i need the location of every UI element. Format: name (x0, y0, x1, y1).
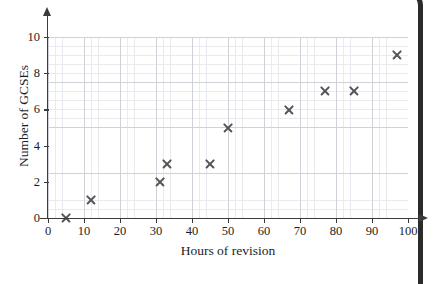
data-point-marker (319, 85, 331, 97)
plot-area (48, 37, 408, 218)
x-axis-tick-label: 20 (102, 224, 138, 239)
data-point-marker (283, 103, 295, 115)
data-point-marker (348, 85, 360, 97)
x-axis-tick (192, 218, 193, 223)
x-axis-tick-label: 90 (354, 224, 390, 239)
x-axis-tick-label: 0 (30, 224, 66, 239)
x-axis-tick-label: 40 (174, 224, 210, 239)
x-axis-tick-label: 60 (246, 224, 282, 239)
data-point-marker (222, 122, 234, 134)
y-axis-tick (44, 109, 49, 110)
x-axis-tick-label: 50 (210, 224, 246, 239)
data-point-marker (154, 176, 166, 188)
data-point-marker (161, 158, 173, 170)
y-axis-tick (44, 218, 49, 219)
x-axis-arrowhead (419, 214, 428, 222)
x-axis-tick-label: 70 (282, 224, 318, 239)
x-axis-tick-label: 30 (138, 224, 174, 239)
y-axis-title: Number of GCSEs (16, 36, 32, 196)
x-axis-title: Hours of revision (128, 243, 328, 259)
x-axis-tick-label: 80 (318, 224, 354, 239)
y-axis-tick-label: 0 (0, 211, 40, 225)
x-axis-line (40, 218, 420, 219)
y-axis-tick (44, 146, 49, 147)
x-axis-tick (264, 218, 265, 223)
y-axis-line (47, 14, 48, 219)
x-axis-tick (120, 218, 121, 223)
y-axis-tick (44, 73, 49, 74)
x-axis-tick (408, 218, 409, 223)
x-axis-tick (84, 218, 85, 223)
x-axis-tick-label: 100 (390, 224, 426, 239)
x-axis-tick (228, 218, 229, 223)
x-axis-tick (336, 218, 337, 223)
data-point-marker (85, 194, 97, 206)
x-axis-tick (156, 218, 157, 223)
data-point-marker (204, 158, 216, 170)
y-axis-tick (44, 37, 49, 38)
x-axis-tick (372, 218, 373, 223)
y-axis-tick (44, 182, 49, 183)
y-axis-arrowhead (43, 7, 51, 16)
data-point-marker (391, 49, 403, 61)
x-axis-tick (300, 218, 301, 223)
x-axis-tick-label: 10 (66, 224, 102, 239)
